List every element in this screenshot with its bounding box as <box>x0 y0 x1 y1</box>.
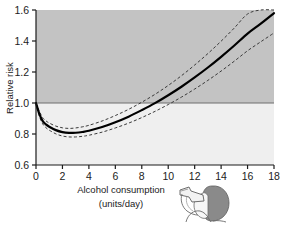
y-axis-tick-label: 0.8 <box>14 128 29 140</box>
y-axis-tick-label: 1.6 <box>14 4 29 16</box>
x-axis-tick-label: 6 <box>112 170 118 182</box>
y-axis-tick-label: 1.4 <box>14 35 29 47</box>
x-axis-tick-label: 2 <box>60 170 66 182</box>
drinking-person-illustration <box>180 186 229 222</box>
x-axis-title-line-2: (units/day) <box>99 198 143 209</box>
plot-background-above-reference <box>36 10 274 103</box>
chart-canvas: 0.60.81.01.21.41.6 024681012141618 Relat… <box>0 0 295 225</box>
relative-risk-chart-figure: 0.60.81.01.21.41.6 024681012141618 Relat… <box>0 0 295 225</box>
x-axis-tick-label: 4 <box>86 170 92 182</box>
x-axis-ticks <box>36 165 274 169</box>
shoulder-outline <box>213 221 226 222</box>
bottle-shape <box>180 187 204 202</box>
x-axis-tick-label: 16 <box>242 170 254 182</box>
x-axis-tick-label: 18 <box>268 170 280 182</box>
y-axis-tick-label: 1.2 <box>14 66 29 78</box>
y-axis-title: Relative risk <box>4 62 15 114</box>
y-axis-tick-label: 1.0 <box>14 97 29 109</box>
x-axis-title-line-1: Alcohol consumption <box>77 184 165 195</box>
x-axis-tick-label: 10 <box>162 170 174 182</box>
x-axis-tick-label: 14 <box>215 170 227 182</box>
y-axis-tick-labels: 0.60.81.01.21.41.6 <box>14 4 29 171</box>
x-axis-tick-label: 12 <box>189 170 201 182</box>
y-axis-tick-label: 0.6 <box>14 159 29 171</box>
x-axis-tick-label: 8 <box>139 170 145 182</box>
x-axis-tick-label: 0 <box>33 170 39 182</box>
x-axis-tick-labels: 024681012141618 <box>33 170 280 182</box>
